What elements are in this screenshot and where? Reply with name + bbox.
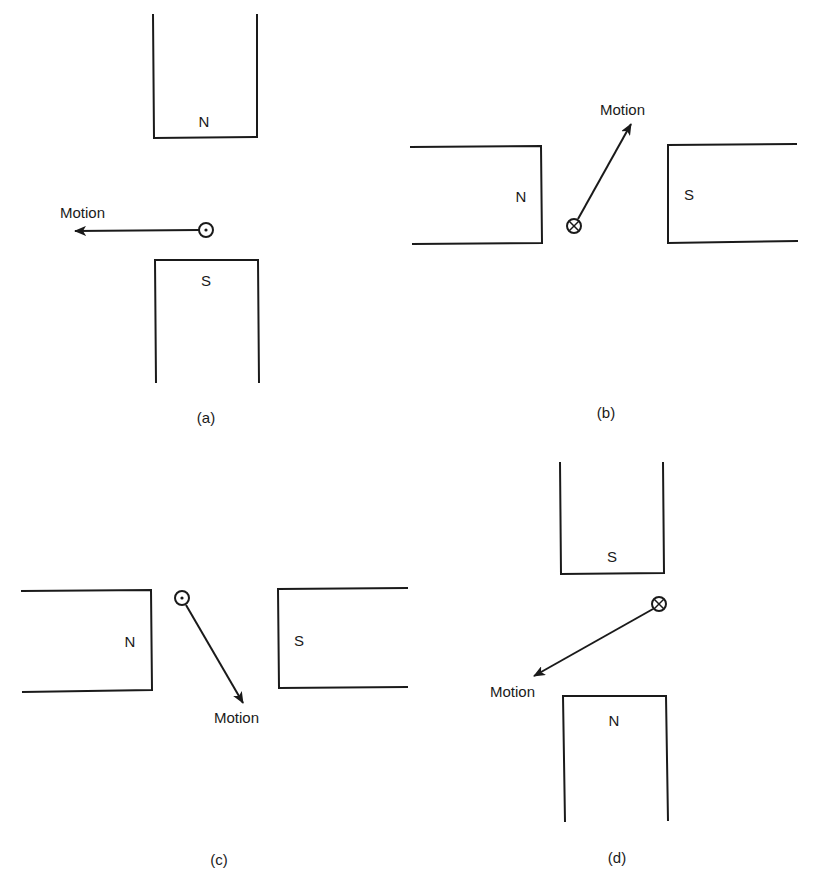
motion-label: Motion [490, 683, 535, 700]
figure-canvas: N S Motion (a) N S Motion (b) N S [0, 0, 814, 887]
south-pole-label: S [607, 548, 617, 565]
north-pole-label: N [609, 712, 620, 729]
north-pole-label: N [125, 633, 136, 650]
conductor-dot-icon [175, 591, 189, 605]
panel-caption: (a) [197, 409, 215, 426]
motion-arrow [534, 609, 653, 676]
panel-caption: (d) [608, 849, 626, 866]
panel-c: N S Motion (c) [21, 588, 408, 868]
panel-a: N S Motion (a) [60, 14, 259, 426]
motion-label: Motion [600, 101, 645, 118]
panel-d: S N Motion (d) [490, 462, 668, 866]
conductor-dot-icon [199, 223, 213, 237]
conductor-cross-icon [567, 219, 581, 233]
panel-b: N S Motion (b) [410, 101, 798, 421]
magnet-diagram: N S Motion (a) N S Motion (b) N S [0, 0, 814, 887]
motion-label: Motion [60, 204, 105, 221]
south-pole-label: S [201, 272, 211, 289]
panel-caption: (c) [210, 851, 228, 868]
motion-arrow [186, 605, 243, 703]
north-pole-label: N [516, 188, 527, 205]
motion-arrow [75, 230, 199, 231]
north-pole-label: N [199, 113, 210, 130]
south-pole-label: S [684, 186, 694, 203]
panel-caption: (b) [597, 404, 615, 421]
motion-arrow [578, 124, 631, 219]
south-pole-label: S [294, 632, 304, 649]
motion-label: Motion [214, 709, 259, 726]
conductor-cross-icon [652, 597, 666, 611]
